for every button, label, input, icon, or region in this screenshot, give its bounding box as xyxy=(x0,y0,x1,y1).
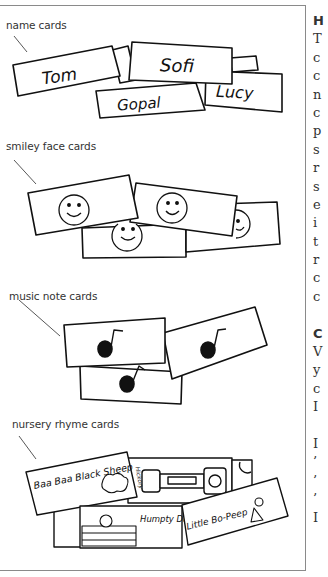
name-card-text-sofi: Sofi xyxy=(160,54,195,76)
side-text-line: e xyxy=(313,196,328,214)
side-text-line: c xyxy=(313,269,328,287)
side-text-line: y xyxy=(313,361,328,379)
side-text-line xyxy=(313,417,328,435)
side-text-line: c xyxy=(313,288,328,306)
side-text-line: n xyxy=(313,86,328,104)
smiley-cards-group xyxy=(14,160,280,258)
name-card-text-lucy: Lucy xyxy=(216,82,255,103)
side-text-column: H T c c n c p s r s e i t r c c C V y c … xyxy=(313,12,328,527)
side-text-line: c xyxy=(313,67,328,85)
side-text-line xyxy=(313,306,328,324)
side-text-line: c xyxy=(313,380,328,398)
side-heading-fragment: H xyxy=(313,12,328,30)
side-text-line: i xyxy=(313,214,328,232)
side-text-line: I xyxy=(313,398,328,416)
side-text-line: c xyxy=(313,49,328,67)
side-text-line: c xyxy=(313,104,328,122)
side-text-line: p xyxy=(313,122,328,140)
side-subheading-fragment: C xyxy=(313,325,328,343)
music-note-cards-group xyxy=(19,300,267,404)
nursery-rhyme-cards-group: Baa Baa Black Sheep Humpty Dumpty Little… xyxy=(19,436,288,548)
side-text-line: I xyxy=(313,435,328,453)
side-text-line: T xyxy=(313,30,328,48)
side-text-line: r xyxy=(313,251,328,269)
side-text-line: I xyxy=(313,509,328,527)
side-text-line: ’ xyxy=(313,490,328,508)
side-text-line: t xyxy=(313,233,328,251)
side-text-line: s xyxy=(313,178,328,196)
side-text-line: V xyxy=(313,343,328,361)
name-card-text-gopal: Gopal xyxy=(116,94,162,115)
side-text-line: s xyxy=(313,141,328,159)
name-cards-group: Tom Sofi Gopal Lucy xyxy=(13,36,282,118)
side-text-line: r xyxy=(313,159,328,177)
side-text-line: ’ xyxy=(313,453,328,471)
side-text-line: ’ xyxy=(313,472,328,490)
